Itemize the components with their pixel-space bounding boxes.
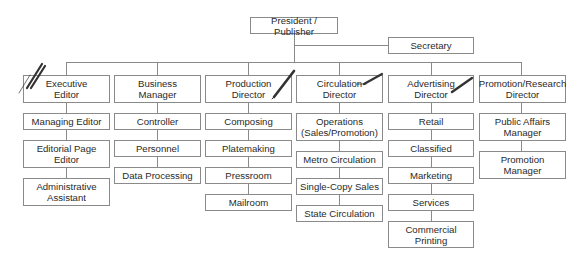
node-public-affairs-manager: Public Affairs Manager: [479, 113, 566, 141]
node-circulation-director: Circulation Director: [296, 75, 383, 103]
node-pressroom: Pressroom: [205, 167, 292, 184]
node-managing-editor: Managing Editor: [23, 113, 110, 130]
node-executive-editor: Executive Editor: [23, 75, 110, 103]
node-advertising-director: Advertising Director: [388, 75, 474, 103]
node-commercial-printing: Commercial Printing: [388, 221, 474, 248]
node-administrative-assistant: Administrative Assistant: [23, 178, 110, 206]
node-president-publisher: President / Publisher: [250, 17, 338, 34]
node-services: Services: [388, 194, 474, 211]
node-production-director: Production Director: [205, 75, 292, 103]
node-personnel: Personnel: [114, 140, 201, 157]
node-platemaking: Platemaking: [205, 140, 292, 157]
node-retail: Retail: [388, 113, 474, 130]
node-marketing: Marketing: [388, 167, 474, 184]
connector-bus: [66, 62, 522, 63]
node-composing: Composing: [205, 113, 292, 130]
node-mailroom: Mailroom: [205, 194, 292, 211]
connector-top-vertical: [294, 33, 295, 63]
node-promotion-research-director: Promotion/Research Director: [479, 75, 566, 103]
node-classified: Classified: [388, 140, 474, 157]
node-single-copy-sales: Single-Copy Sales: [296, 178, 383, 195]
node-state-circulation: State Circulation: [296, 205, 383, 222]
node-data-processing: Data Processing: [114, 167, 201, 184]
node-operations: Operations (Sales/Promotion): [296, 113, 383, 141]
node-controller: Controller: [114, 113, 201, 130]
node-promotion-manager: Promotion Manager: [479, 151, 566, 179]
node-secretary: Secretary: [388, 37, 474, 54]
node-business-manager: Business Manager: [114, 75, 201, 103]
node-editorial-page-editor: Editorial Page Editor: [23, 140, 110, 168]
connector-secretary: [294, 45, 388, 46]
node-metro-circulation: Metro Circulation: [296, 151, 383, 168]
